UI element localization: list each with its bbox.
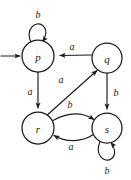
transition-label-s-s: b bbox=[105, 165, 110, 176]
state-label-r: r bbox=[36, 123, 41, 135]
transition-p-r: a bbox=[28, 72, 39, 108]
transition-label-q-p: a bbox=[70, 41, 75, 52]
transition-q-p: a bbox=[60, 41, 92, 56]
state-s[interactable]: s bbox=[92, 113, 122, 143]
transition-label-s-r: a bbox=[69, 141, 74, 152]
state-label-p: p bbox=[34, 51, 41, 63]
diagram-canvas: b a a b a b a bbox=[0, 0, 131, 180]
state-label-q: q bbox=[104, 53, 110, 65]
transition-r-q: a bbox=[45, 71, 97, 118]
transition-label-r-q: a bbox=[59, 74, 64, 85]
transition-q-s: b bbox=[107, 73, 119, 109]
state-p[interactable]: p bbox=[22, 40, 54, 72]
transition-label-p-r: a bbox=[28, 86, 33, 97]
state-label-s: s bbox=[105, 123, 109, 135]
transition-p-p: b bbox=[29, 9, 46, 43]
transition-s-s: b bbox=[98, 142, 114, 176]
transition-r-s: b bbox=[53, 99, 94, 121]
transition-s-r: a bbox=[54, 135, 94, 152]
transition-label-r-s: b bbox=[68, 99, 73, 110]
transition-label-p-p: b bbox=[36, 9, 41, 20]
transition-label-q-s: b bbox=[114, 87, 119, 98]
state-q[interactable]: q bbox=[92, 43, 122, 73]
state-transition-diagram: b a a b a b a bbox=[0, 0, 131, 180]
state-r[interactable]: r bbox=[22, 112, 54, 144]
